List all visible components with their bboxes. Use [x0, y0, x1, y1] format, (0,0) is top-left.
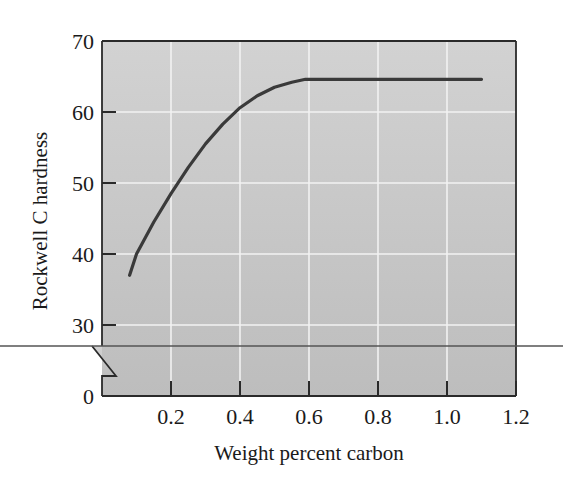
y-tick-label: 30 [72, 313, 94, 338]
y-tick-label: 0 [83, 384, 94, 409]
y-tick-label: 40 [72, 242, 94, 267]
y-tick-label: 60 [72, 100, 94, 125]
x-tick-label: 0.8 [364, 404, 392, 429]
x-tick-label: 1.0 [433, 404, 461, 429]
x-tick-label: 0.2 [157, 404, 185, 429]
x-tick-label: 0.6 [295, 404, 323, 429]
y-tick-label: 50 [72, 171, 94, 196]
x-axis-title: Weight percent carbon [214, 441, 404, 465]
x-tick-label: 1.2 [502, 404, 530, 429]
chart-canvas: 030405060700.20.40.60.81.01.2 Weight per… [0, 0, 563, 488]
y-axis-title: Rockwell C hardness [28, 132, 52, 310]
y-tick-label: 70 [72, 29, 94, 54]
chart: 030405060700.20.40.60.81.01.2 Weight per… [0, 0, 563, 488]
x-tick-label: 0.4 [226, 404, 254, 429]
